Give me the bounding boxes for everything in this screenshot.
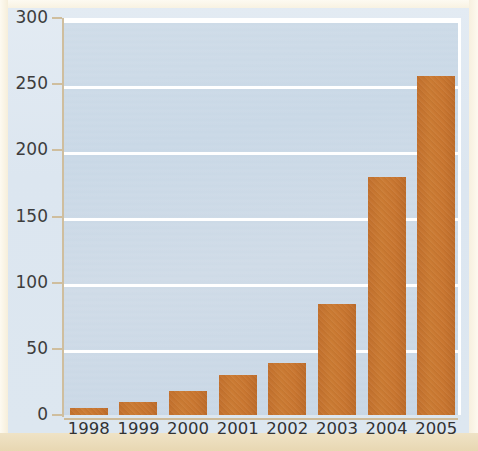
x-tick-label-1998: 1998	[64, 419, 114, 438]
y-tick-mark-200	[52, 149, 62, 151]
y-tick-label-0: 0	[0, 404, 48, 424]
bar-2001	[219, 375, 257, 415]
x-tick-label-2000: 2000	[163, 419, 213, 438]
bar-2003	[318, 304, 356, 415]
bar-2005	[417, 76, 455, 415]
y-tick-mark-150	[52, 216, 62, 218]
y-tick-mark-0	[52, 414, 62, 416]
gridline-200	[64, 152, 458, 155]
y-tick-mark-50	[52, 348, 62, 350]
frame-top-border	[0, 0, 478, 8]
frame-right-border	[469, 0, 478, 451]
y-tick-mark-300	[52, 17, 62, 19]
bar-1999	[119, 402, 157, 415]
y-tick-mark-100	[52, 282, 62, 284]
bar-2004	[368, 177, 406, 415]
x-tick-label-2002: 2002	[263, 419, 313, 438]
y-tick-label-200: 200	[0, 139, 48, 159]
y-axis-line	[62, 18, 64, 417]
bar-2002	[268, 363, 306, 415]
y-axis-tick-labels: 050100150200250300	[0, 0, 50, 451]
x-tick-label-2005: 2005	[411, 419, 461, 438]
gridline-300	[64, 20, 458, 23]
y-tick-mark-250	[52, 83, 62, 85]
bar-chart-figure: 050100150200250300 199819992000200120022…	[0, 0, 478, 451]
x-tick-label-2004: 2004	[362, 419, 412, 438]
x-tick-label-2003: 2003	[312, 419, 362, 438]
y-tick-label-300: 300	[0, 7, 48, 27]
gridline-250	[64, 86, 458, 89]
y-tick-label-100: 100	[0, 272, 48, 292]
y-tick-label-250: 250	[0, 73, 48, 93]
plot-area	[64, 18, 461, 415]
x-tick-label-1999: 1999	[114, 419, 164, 438]
bar-2000	[169, 391, 207, 415]
y-tick-label-50: 50	[0, 338, 48, 358]
x-axis-tick-labels: 19981999200020012002200320042005	[64, 419, 461, 447]
y-tick-label-150: 150	[0, 206, 48, 226]
x-tick-label-2001: 2001	[213, 419, 263, 438]
bar-1998	[70, 408, 108, 415]
